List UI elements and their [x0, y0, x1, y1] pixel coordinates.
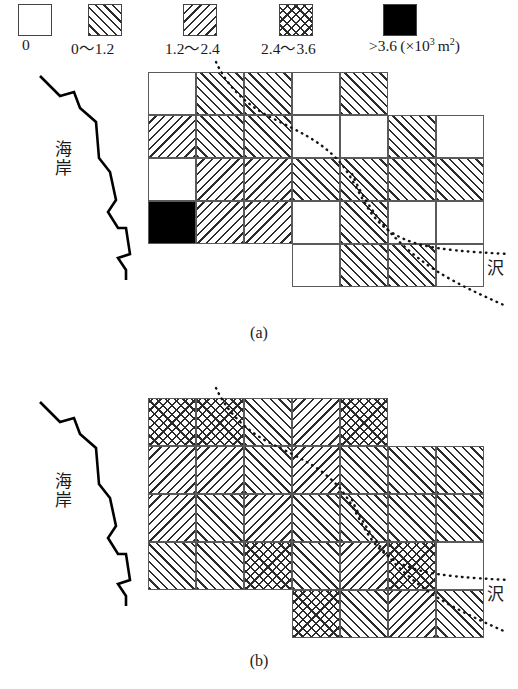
grid-cell [436, 244, 484, 287]
grid-cell [244, 158, 292, 201]
grid-cell [196, 494, 244, 542]
grid-cell [148, 446, 196, 494]
legend: 0 0〜1.2 1.2〜2.4 2.4〜3.6 >3.6 (×103 m2) [0, 0, 518, 62]
grid-cell [436, 201, 484, 244]
grid-map-a [0, 62, 518, 312]
grid-cell [292, 590, 340, 638]
grid-cell [292, 494, 340, 542]
grid-cell [436, 446, 484, 494]
grid-cell [244, 398, 292, 446]
grid-cell [244, 115, 292, 158]
grid-cell [148, 494, 196, 542]
grid-cell [340, 115, 388, 158]
legend-item-1 [88, 4, 122, 36]
grid-cell [196, 158, 244, 201]
grid-cell [292, 72, 340, 115]
grid-cell [292, 398, 340, 446]
grid-cell [148, 158, 196, 201]
grid-cell [388, 494, 436, 542]
legend-swatch-none [18, 4, 52, 36]
legend-label-0: 0 [22, 36, 30, 54]
legend-label-4-range: >3.6 [369, 37, 397, 54]
grid-cell [388, 542, 436, 590]
grid-cell [436, 158, 484, 201]
legend-item-2 [183, 4, 217, 36]
legend-swatch-forward-hatch [88, 4, 122, 36]
grid-cell [292, 244, 340, 287]
grid-cell [244, 542, 292, 590]
grid-cell [340, 244, 388, 287]
grid-cell [244, 201, 292, 244]
legend-label-2: 1.2〜2.4 [165, 36, 220, 58]
grid-cell [388, 158, 436, 201]
legend-swatch-solid [383, 4, 417, 36]
grid-cell [196, 446, 244, 494]
grid-cell [244, 446, 292, 494]
legend-item-0 [18, 4, 52, 36]
caption-a: (a) [0, 324, 518, 342]
grid-cell [148, 398, 196, 446]
grid-cell [436, 590, 484, 638]
grid-cell [148, 542, 196, 590]
grid-cell [292, 542, 340, 590]
grid-cell [148, 115, 196, 158]
grid-cell [292, 446, 340, 494]
grid-cell [148, 201, 196, 244]
legend-label-3: 2.4〜3.6 [261, 36, 316, 58]
grid-cell [196, 398, 244, 446]
grid-cell [388, 446, 436, 494]
map-panel-a: 海岸 沢 [0, 62, 518, 352]
map-panel-b: 海岸 沢 [0, 368, 518, 668]
grid-cell [292, 115, 340, 158]
grid-cell [388, 590, 436, 638]
grid-cell [388, 115, 436, 158]
grid-cell [244, 72, 292, 115]
grid-cell [196, 72, 244, 115]
grid-cell [340, 398, 388, 446]
grid-cell [292, 201, 340, 244]
grid-cell [340, 158, 388, 201]
legend-label-1: 0〜1.2 [71, 36, 114, 58]
grid-cell [196, 201, 244, 244]
grid-cell [436, 494, 484, 542]
legend-item-4 [383, 4, 417, 36]
grid-cell [196, 542, 244, 590]
legend-unit-note: (×103 m2) [397, 37, 460, 54]
grid-cell [148, 72, 196, 115]
grid-cell [340, 590, 388, 638]
grid-cell [388, 244, 436, 287]
legend-swatch-crosshatch [279, 4, 313, 36]
caption-b: (b) [0, 652, 518, 670]
grid-cell [340, 72, 388, 115]
grid-cell [340, 494, 388, 542]
grid-cell [292, 158, 340, 201]
grid-cell [244, 494, 292, 542]
legend-swatch-backward-hatch [183, 4, 217, 36]
grid-cell [436, 542, 484, 590]
grid-cell [340, 542, 388, 590]
legend-item-3 [279, 4, 313, 36]
grid-cell [196, 115, 244, 158]
grid-cell [436, 115, 484, 158]
grid-cell [388, 201, 436, 244]
grid-map-b [0, 368, 518, 638]
grid-cell [340, 201, 388, 244]
grid-cell [340, 446, 388, 494]
legend-label-4: >3.6 (×103 m2) [369, 36, 460, 55]
